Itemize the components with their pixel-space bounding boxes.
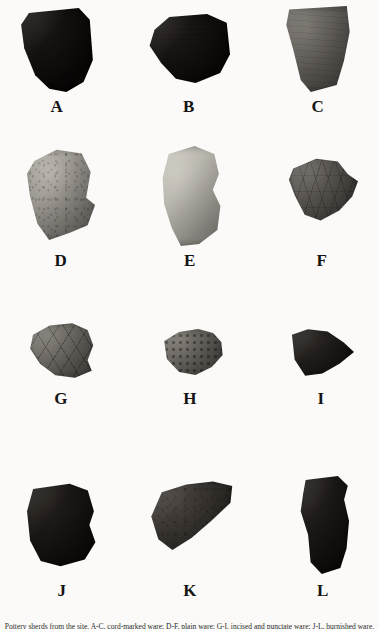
specimen-label-h: H (150, 390, 230, 407)
sherd-image-c (282, 6, 354, 92)
sherd-edge-shadow (282, 6, 354, 92)
pottery-sherd-plate: Pottery sherds from the site. A-C, cord-… (0, 0, 379, 629)
specimen-label-d: D (21, 252, 101, 269)
specimen-label-l: L (283, 582, 363, 599)
specimen-label-c: C (278, 98, 358, 115)
specimen-label-e: E (150, 252, 230, 269)
specimen-label-k: K (150, 582, 230, 599)
specimen-label-i: I (281, 390, 361, 407)
sherd-edge-shadow (148, 14, 230, 86)
sherd-image-l (292, 476, 354, 574)
specimen-label-g: G (21, 390, 101, 407)
sherd-edge-shadow (152, 146, 228, 246)
sherd-image-f (286, 156, 358, 226)
sherd-image-a (18, 8, 96, 92)
sherd-edge-shadow (24, 148, 98, 240)
specimen-label-a: A (17, 98, 97, 115)
sherd-image-e (152, 146, 228, 246)
sherd-edge-shadow (288, 326, 354, 380)
sherd-edge-shadow (146, 480, 234, 556)
sherd-edge-shadow (24, 482, 100, 568)
specimen-label-f: F (282, 252, 362, 269)
specimen-label-j: J (22, 582, 102, 599)
sherd-edge-shadow (26, 322, 96, 380)
sherd-image-g (26, 322, 96, 380)
sherd-edge-shadow (156, 328, 224, 378)
figure-caption: Pottery sherds from the site. A-C, cord-… (0, 623, 379, 629)
specimen-label-b: B (149, 98, 229, 115)
sherd-edge-shadow (292, 476, 354, 574)
sherd-image-b (148, 14, 230, 86)
sherd-image-d (24, 148, 98, 240)
sherd-image-k (146, 480, 234, 556)
sherd-edge-shadow (286, 156, 358, 226)
sherd-edge-shadow (18, 8, 96, 92)
sherd-image-i (288, 326, 354, 380)
sherd-image-h (156, 328, 224, 378)
sherd-image-j (24, 482, 100, 568)
